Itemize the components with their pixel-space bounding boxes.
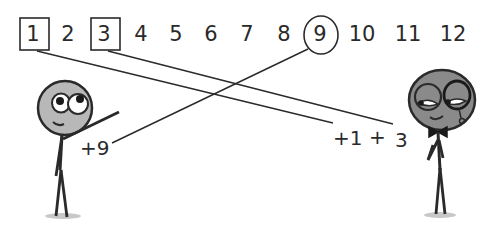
- number-2: 2: [61, 22, 74, 46]
- number-6: 6: [204, 22, 217, 46]
- number-row: 1 2 3 4 5 6 7 8 9 10 11 12: [26, 22, 466, 46]
- line-from-3: [108, 51, 393, 124]
- number-8: 8: [277, 22, 290, 46]
- ground-shadow-left: [45, 213, 81, 219]
- label-3: 3: [395, 128, 408, 152]
- number-7: 7: [240, 22, 253, 46]
- pupil-right-2: [445, 99, 451, 105]
- number-11: 11: [395, 22, 422, 46]
- leg-right-2: [440, 168, 445, 214]
- number-10: 10: [349, 22, 376, 46]
- label-plus-1: +1: [333, 126, 362, 150]
- number-12: 12: [440, 22, 467, 46]
- comic-panel: 1 2 3 4 5 6 7 8 9 10 11 12 +9 +1 + 3: [0, 0, 504, 236]
- pupil-left-2: [76, 95, 84, 103]
- number-9: 9: [313, 22, 326, 46]
- number-3: 3: [97, 22, 110, 46]
- leg-left-2: [61, 170, 67, 217]
- number-5: 5: [169, 22, 182, 46]
- number-1: 1: [26, 22, 39, 46]
- arm-right-chin: [428, 140, 438, 160]
- pupil-left-1: [56, 97, 64, 105]
- label-plus-9: +9: [80, 136, 109, 160]
- leg-left-1: [56, 170, 61, 216]
- pupil-right-1: [418, 100, 424, 106]
- number-4: 4: [134, 22, 147, 46]
- line-from-9: [112, 49, 308, 143]
- label-plus: +: [369, 125, 386, 149]
- right-stick-figure: [409, 70, 475, 218]
- ground-shadow-right: [424, 212, 456, 218]
- body-right: [438, 132, 440, 170]
